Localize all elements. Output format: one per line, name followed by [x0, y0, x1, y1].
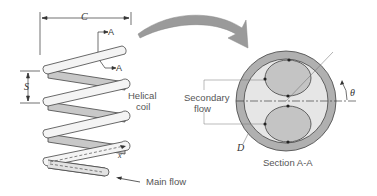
- axial-coordinate-label: x: [118, 151, 122, 161]
- spacing-dimension: [20, 71, 40, 103]
- section-label-bottom: A: [116, 63, 122, 73]
- section-title: Section A-A: [263, 158, 313, 168]
- main-flow-label: Main flow: [146, 177, 186, 187]
- helical-coil-label-line1: Helical: [128, 91, 157, 101]
- angle-label: θ: [350, 88, 355, 98]
- helical-coil-label-line2: coil: [136, 102, 150, 112]
- pitch-label: C: [81, 12, 88, 22]
- diameter-label: D: [237, 143, 244, 153]
- section-label-top: A: [108, 27, 114, 37]
- secondary-flow-label-line2: flow: [194, 104, 211, 114]
- pipe-cross-section: [236, 51, 358, 151]
- curved-arrow: [138, 15, 248, 48]
- spacing-label: S: [24, 82, 29, 92]
- secondary-flow-label-line1: Secondary: [184, 93, 229, 103]
- main-flow-arrow: [116, 177, 140, 183]
